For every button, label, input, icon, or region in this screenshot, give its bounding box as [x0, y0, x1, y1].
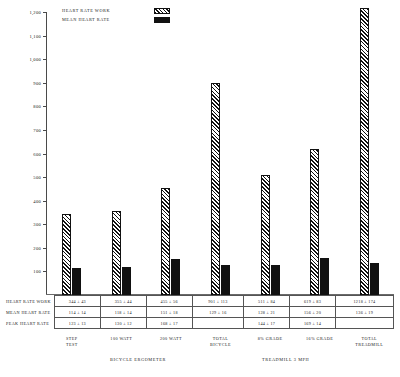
bar-heart-rate-work [62, 214, 71, 295]
group-label-treadmill: TREADMILL 3 MPH [262, 357, 309, 362]
table-cell: 156 ± 20 [290, 307, 336, 318]
bar-heart-rate-work [161, 188, 170, 295]
table-cell: 168 ± 17 [146, 318, 192, 329]
table-cell: 169 ± 14 [290, 318, 336, 329]
table-cell [335, 318, 393, 329]
table-cell: 118 ± 14 [100, 307, 146, 318]
y-axis-tick-label: 900 [33, 80, 41, 85]
table-row-label: PEAK HEART RATE [6, 318, 54, 329]
x-axis-category-labels: STEPTEST100 WATT200 WATTTOTALBICYCLE8% G… [47, 336, 394, 347]
y-axis-tick-label: 500 [33, 175, 41, 180]
bar-group [146, 12, 196, 295]
chart-plot-area: 1,2001,1001,0009008007006005004003002001… [46, 12, 394, 295]
table-cell [192, 318, 244, 329]
table-cell: 130 ± 12 [100, 318, 146, 329]
table-row: PEAK HEART RATE123 ± 13130 ± 12168 ± 171… [6, 318, 394, 329]
data-table-body: HEART RATE WORK344 ± 43355 ± 44455 ± 569… [6, 296, 394, 329]
table-cell: 344 ± 43 [54, 296, 100, 307]
x-axis-label: 200 WATT [146, 336, 196, 347]
x-axis-label: 100 WATT [97, 336, 147, 347]
y-axis-tick-label: 600 [33, 151, 41, 156]
x-axis-label-line: 200 WATT [146, 336, 196, 342]
table-row: HEART RATE WORK344 ± 43355 ± 44455 ± 569… [6, 296, 394, 307]
bar-heart-rate-work [360, 8, 369, 295]
group-label-bicycle-ergometer: BICYCLE ERGOMETER [110, 357, 166, 362]
table-cell: 136 ± 19 [335, 307, 393, 318]
table-row-label: HEART RATE WORK [6, 296, 54, 307]
bar-group [196, 12, 246, 295]
x-axis-label-line: TREADMILL [344, 342, 394, 348]
bar-group [344, 12, 394, 295]
table-cell: 151 ± 18 [146, 307, 192, 318]
bar-heart-rate-work [310, 149, 319, 295]
x-axis-label-line: 100 WATT [97, 336, 147, 342]
x-axis-label-line: TEST [47, 342, 97, 348]
table-cell: 901 ± 113 [192, 296, 244, 307]
table-cell: 1218 ± 174 [335, 296, 393, 307]
table-cell: 129 ± 16 [192, 307, 244, 318]
table-cell: 355 ± 44 [100, 296, 146, 307]
y-axis-tick-label: 200 [33, 245, 41, 250]
x-axis-label-line: 16% GRADE [295, 336, 345, 342]
x-axis-label-line: BICYCLE [196, 342, 246, 348]
bar-mean-heart-rate [370, 263, 379, 295]
bar-mean-heart-rate [320, 258, 329, 295]
bar-group [97, 12, 147, 295]
y-axis-tick-label: 700 [33, 127, 41, 132]
bar-group [295, 12, 345, 295]
y-axis-tick-label: 1,000 [29, 57, 41, 62]
table-cell: 128 ± 21 [244, 307, 290, 318]
bar-groups [47, 12, 394, 295]
data-table-wrapper: HEART RATE WORK344 ± 43355 ± 44455 ± 569… [6, 295, 394, 329]
y-axis-tick-label: 100 [33, 269, 41, 274]
x-axis-label: STEPTEST [47, 336, 97, 347]
y-axis-tick-label: 800 [33, 104, 41, 109]
y-axis-tick-label: 1,200 [29, 10, 41, 15]
bar-heart-rate-work [261, 175, 270, 296]
table-cell: 511 ± 84 [244, 296, 290, 307]
bar-heart-rate-work [211, 83, 220, 295]
bar-mean-heart-rate [122, 267, 131, 295]
bar-heart-rate-work [112, 211, 121, 295]
bar-mean-heart-rate [221, 265, 230, 295]
x-axis-label-line: 8% GRADE [245, 336, 295, 342]
bar-group [47, 12, 97, 295]
x-axis-label: TOTALBICYCLE [196, 336, 246, 347]
bar-mean-heart-rate [72, 268, 81, 295]
table-cell: 114 ± 14 [54, 307, 100, 318]
x-axis-label: TOTALTREADMILL [344, 336, 394, 347]
y-axis-tick-label: 400 [33, 198, 41, 203]
bar-group [245, 12, 295, 295]
y-axis-tick-label: 1,100 [29, 33, 41, 38]
table-row: MEAN HEART RATE114 ± 14118 ± 14151 ± 181… [6, 307, 394, 318]
bar-mean-heart-rate [271, 265, 280, 295]
x-axis-label: 16% GRADE [295, 336, 345, 347]
y-axis-tick-label: 300 [33, 222, 41, 227]
bar-mean-heart-rate [171, 259, 180, 295]
data-table: HEART RATE WORK344 ± 43355 ± 44455 ± 569… [6, 295, 394, 329]
table-cell: 619 ± 83 [290, 296, 336, 307]
table-cell: 455 ± 56 [146, 296, 192, 307]
table-cell: 144 ± 17 [244, 318, 290, 329]
table-cell: 123 ± 13 [54, 318, 100, 329]
table-row-label: MEAN HEART RATE [6, 307, 54, 318]
x-axis-label: 8% GRADE [245, 336, 295, 347]
